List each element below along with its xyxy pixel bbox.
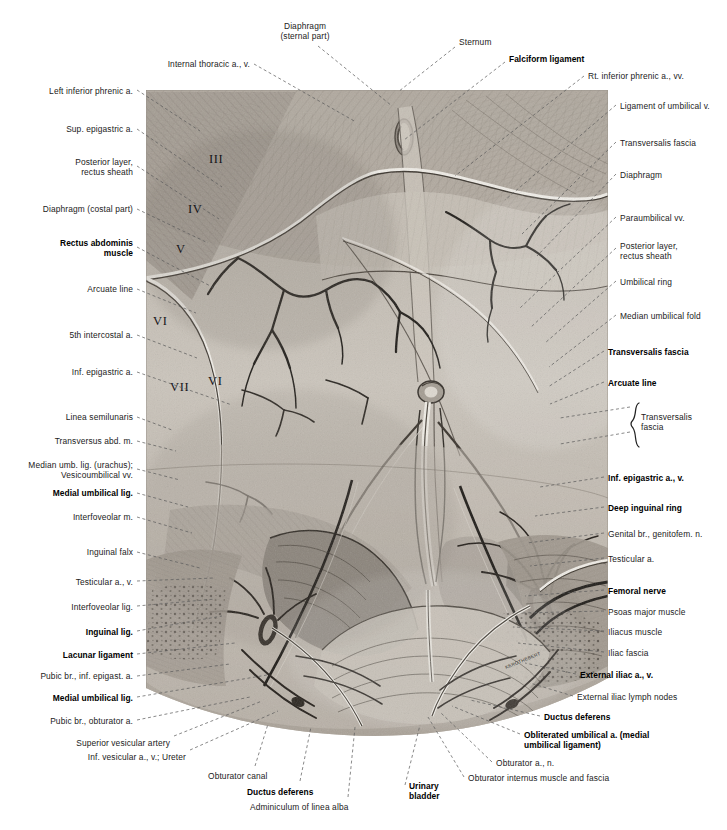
roman-numeral-VII: VII <box>170 380 189 395</box>
roman-numeral-IV: IV <box>188 202 202 217</box>
label-external-iliac-a-v: External iliac a., v. <box>580 671 653 681</box>
label-transversalis-fascia-bold: Transversalis fascia <box>608 348 689 358</box>
label-falciform-ligament: Falciform ligament <box>509 55 584 65</box>
label-pubic-br-inf-epigast-a: Pubic br., inf. epigast. a. <box>40 672 133 682</box>
label-testicular-a-v-left: Testicular a., v. <box>76 578 133 588</box>
label-interfoveolar-lig: Interfoveolar lig. <box>71 603 133 613</box>
label-iliacus-muscle: Iliacus muscle <box>608 628 662 638</box>
label-rectus-abdominis-muscle: Rectus abdominis muscle <box>60 239 133 258</box>
label-transversalis-fascia-upper: Transversalis fascia <box>620 139 696 149</box>
roman-numeral-V: V <box>176 242 186 257</box>
label-posterior-layer-rectus-sheath-right: Posterior layer, rectus sheath <box>620 242 678 261</box>
label-sup-epigastric-a: Sup. epigastric a. <box>66 125 133 135</box>
label-superior-vesicular-artery: Superior vesicular artery <box>76 739 170 749</box>
label-deep-inguinal-ring: Deep inguinal ring <box>608 504 682 514</box>
label-internal-thoracic-a-v: Internal thoracic a., v. <box>168 60 250 70</box>
roman-numeral-III: III <box>209 152 223 167</box>
leader-sternum <box>398 47 455 92</box>
label-obliterated-umbilical-a: Obliterated umbilical a. (medial umbilic… <box>524 731 649 750</box>
label-transversalis-fascia-brace: Transversalis fascia <box>641 413 692 432</box>
label-diaphragm-costal-part: Diaphragm (costal part) <box>43 205 133 215</box>
label-femoral-nerve: Femoral nerve <box>608 587 666 597</box>
label-lacunar-ligament: Lacunar ligament <box>63 651 133 661</box>
label-inguinal-lig: Inguinal lig. <box>86 628 133 638</box>
label-diaphragm-right: Diaphragm <box>620 171 662 181</box>
label-left-inferior-phrenic-a: Left inferior phrenic a. <box>49 87 133 97</box>
anatomy-plate: III IV V VI VII VI KEROTHEBERT Diaphragm… <box>0 0 727 830</box>
label-posterior-layer-rectus-sheath-left: Posterior layer, rectus sheath <box>75 158 133 177</box>
label-arcuate-line-right: Arcuate line <box>608 379 657 389</box>
label-inf-epigastric-a: Inf. epigastric a. <box>72 368 133 378</box>
label-inf-vesicular-a-v-ureter: Inf. vesicular a., v.; Ureter <box>88 753 186 763</box>
label-interfoveolar-m: Interfoveolar m. <box>73 513 133 523</box>
label-testicular-a-right: Testicular a. <box>608 555 654 565</box>
label-rt-inferior-phrenic-a-vv: Rt. inferior phrenic a., vv. <box>588 72 684 82</box>
label-inguinal-falx: Inguinal falx <box>87 548 133 558</box>
label-obturator-canal: Obturator canal <box>208 772 268 782</box>
label-obturator-a-n: Obturator a., n. <box>496 759 554 769</box>
label-ductus-deferens-bottom: Ductus deferens <box>247 788 313 798</box>
label-genital-br-genitofem-n: Genital br., genitofem. n. <box>608 530 702 540</box>
label-median-umb-lig-urachus: Median umb. lig. (urachus); Vesicoumbili… <box>28 461 133 480</box>
label-iliac-fascia: Iliac fascia <box>608 649 649 659</box>
roman-numeral-VI-upper: VI <box>153 314 167 329</box>
label-obturator-internus-muscle-fascia: Obturator internus muscle and fascia <box>468 774 609 784</box>
label-umbilical-ring: Umbilical ring <box>620 278 672 288</box>
label-sternum: Sternum <box>459 38 492 48</box>
label-medial-umbilical-lig-upper: Medial umbilical lig. <box>53 489 133 499</box>
label-medial-umbilical-lig-lower: Medial umbilical lig. <box>53 694 133 704</box>
label-urinary-bladder: Urinary bladder <box>409 782 440 801</box>
label-linea-semilunaris: Linea semilunaris <box>66 413 133 423</box>
roman-numeral-VI-lower: VI <box>208 374 222 389</box>
label-median-umbilical-fold: Median umbilical fold <box>620 312 701 322</box>
label-pubic-br-obturator-a: Pubic br., obturator a. <box>50 717 133 727</box>
anatomical-figure: III IV V VI VII VI KEROTHEBERT <box>146 90 608 738</box>
label-ductus-deferens-right: Ductus deferens <box>544 713 610 723</box>
label-fifth-intercostal-a: 5th intercostal a. <box>69 331 133 341</box>
label-adminiculum-of-linea-alba: Adminiculum of linea alba <box>250 803 348 813</box>
figure-artwork <box>146 90 608 738</box>
label-inf-epigastric-a-v: Inf. epigastric a., v. <box>608 474 684 484</box>
label-ligament-of-umbilical-v: Ligament of umbilical v. <box>620 102 710 112</box>
label-arcuate-line-left: Arcuate line <box>87 285 133 295</box>
label-transversus-abd-m: Transversus abd. m. <box>55 437 133 447</box>
label-diaphragm-sternal-part: Diaphragm (sternal part) <box>280 22 329 41</box>
label-paraumbilical-vv: Paraumbilical vv. <box>620 214 685 224</box>
label-psoas-major-muscle: Psoas major muscle <box>608 608 686 618</box>
label-external-iliac-lymph-nodes: External iliac lymph nodes <box>577 693 677 703</box>
